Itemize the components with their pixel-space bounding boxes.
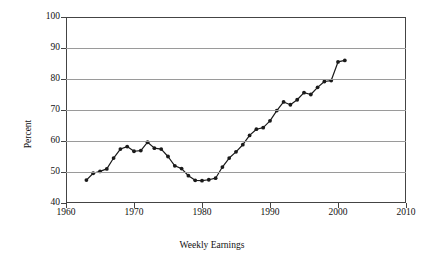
x-tick-label-1990: 1990 [261,208,280,218]
x-tick-label-2000: 2000 [329,208,348,218]
x-tick-label-2010: 2010 [397,208,416,218]
plot-area [66,17,406,203]
x-axis-title: Weekly Earnings [0,240,424,250]
x-tick-mark-1970 [134,203,135,208]
y-tick-label-100: 100 [46,12,60,22]
y-tick-mark-100 [61,17,66,18]
x-axis-tick-labels: 196019701980199020002010 [0,208,424,224]
y-tick-label-60: 60 [51,136,61,146]
gridline-y-70 [66,110,406,111]
y-tick-mark-80 [61,79,66,80]
x-tick-label-1970: 1970 [125,208,144,218]
x-tick-mark-1960 [66,203,67,208]
y-axis-tick-labels: 405060708090100 [34,0,60,268]
y-axis-title: Percent [23,120,33,149]
y-tick-mark-90 [61,48,66,49]
x-tick-mark-1980 [202,203,203,208]
x-tick-mark-1990 [270,203,271,208]
y-tick-label-80: 80 [51,74,61,84]
y-tick-label-90: 90 [51,43,61,53]
y-tick-mark-50 [61,172,66,173]
x-tick-label-1960: 1960 [57,208,76,218]
y-tick-label-50: 50 [51,167,61,177]
y-tick-label-70: 70 [51,105,61,115]
y-tick-mark-60 [61,141,66,142]
gridline-y-80 [66,79,406,80]
y-tick-mark-70 [61,110,66,111]
x-tick-mark-2010 [406,203,407,208]
x-tick-label-1980: 1980 [193,208,212,218]
chart-figure: Percent Weekly Earnings 405060708090100 … [0,0,424,268]
x-tick-mark-2000 [338,203,339,208]
gridline-y-90 [66,48,406,49]
gridline-y-60 [66,141,406,142]
gridline-y-50 [66,172,406,173]
